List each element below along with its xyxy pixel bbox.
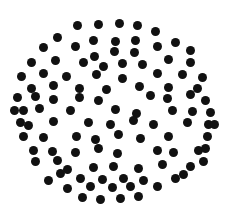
image-canvas <box>0 0 229 216</box>
scatter-dot <box>102 85 111 94</box>
scatter-dot <box>118 59 127 68</box>
scatter-dot <box>118 74 127 83</box>
scatter-dot <box>149 120 158 129</box>
scatter-dot <box>35 104 44 113</box>
scatter-dot <box>136 134 145 143</box>
scatter-dot <box>73 21 82 30</box>
scatter-dot <box>113 149 122 158</box>
scatter-dot <box>89 36 98 45</box>
scatter-dot <box>163 94 172 103</box>
scatter-dot <box>188 107 197 116</box>
scatter-dot <box>153 146 162 155</box>
scatter-dot <box>153 182 162 191</box>
scatter-dot <box>111 37 120 46</box>
scatter-dot <box>186 46 195 55</box>
scatter-dot <box>17 72 26 81</box>
scatter-dot <box>13 93 22 102</box>
scatter-dot <box>53 156 62 165</box>
scatter-dot <box>63 184 72 193</box>
scatter-dot <box>179 170 188 179</box>
scatter-dot <box>164 55 173 64</box>
scatter-dot <box>199 157 208 166</box>
scatter-dot <box>119 174 128 183</box>
scatter-dot <box>31 92 40 101</box>
scatter-dot <box>19 132 28 141</box>
scatter-dot <box>92 70 101 79</box>
scatter-dot <box>71 42 80 51</box>
scatter-dot <box>186 58 195 67</box>
scatter-dot <box>31 157 40 166</box>
scatter-dot <box>29 146 38 155</box>
scatter-dot <box>98 175 107 184</box>
scatter-dot <box>44 176 53 185</box>
scatter-dot <box>131 36 140 45</box>
scatter-dot <box>53 33 62 42</box>
scatter-dot <box>24 121 33 130</box>
scatter-dot <box>49 117 58 126</box>
scatter-dot <box>183 118 192 127</box>
scatter-dot <box>72 132 81 141</box>
scatter-dot <box>135 82 144 91</box>
scatter-dot <box>178 70 187 79</box>
scatter-dot <box>169 148 178 157</box>
scatter-dot <box>111 105 120 114</box>
scatter-dot <box>78 193 87 202</box>
scatter-dot <box>133 21 142 30</box>
scatter-dot <box>75 84 84 93</box>
scatter-dot <box>130 48 139 57</box>
scatter-dot <box>39 69 48 78</box>
scatter-dot <box>75 93 84 102</box>
scatter-dot <box>76 174 85 183</box>
scatter-dot <box>201 96 210 105</box>
scatter-dot <box>86 182 95 191</box>
scatter-dot <box>108 183 117 192</box>
scatter-dot <box>129 116 138 125</box>
scatter-dot <box>186 90 195 99</box>
scatter-dot <box>134 164 143 173</box>
scatter-dot <box>48 147 57 156</box>
scatter-dot <box>62 72 71 81</box>
scatter-dot <box>203 132 212 141</box>
dot-scatter-field <box>0 0 229 216</box>
scatter-dot <box>90 52 99 61</box>
scatter-dot <box>109 162 118 171</box>
scatter-dot <box>151 27 160 36</box>
scatter-dot <box>138 60 147 69</box>
scatter-dot <box>94 20 103 29</box>
scatter-dot <box>134 192 143 201</box>
scatter-dot <box>39 43 48 52</box>
scatter-dot <box>171 38 180 47</box>
scatter-dot <box>84 118 93 127</box>
scatter-dot <box>146 91 155 100</box>
scatter-dot <box>94 96 103 105</box>
scatter-dot <box>206 108 215 117</box>
scatter-dot <box>39 133 48 142</box>
scatter-dot <box>94 144 103 153</box>
scatter-dot <box>96 195 105 204</box>
scatter-dot <box>114 130 123 139</box>
scatter-dot <box>49 81 58 90</box>
scatter-dot <box>164 132 173 141</box>
scatter-dot <box>186 162 195 171</box>
scatter-dot <box>115 19 124 28</box>
scatter-dot <box>168 106 177 115</box>
scatter-dot <box>139 176 148 185</box>
scatter-dot <box>201 144 210 153</box>
scatter-dot <box>126 182 135 191</box>
scatter-dot <box>10 106 19 115</box>
scatter-dot <box>49 95 58 104</box>
scatter-dot <box>56 169 65 178</box>
scatter-dot <box>110 47 119 56</box>
scatter-dot <box>79 58 88 67</box>
scatter-dot <box>66 106 75 115</box>
scatter-dot <box>116 194 125 203</box>
scatter-dot <box>198 73 207 82</box>
scatter-dot <box>71 148 80 157</box>
scatter-dot <box>19 106 28 115</box>
scatter-dot <box>99 62 108 71</box>
scatter-dot <box>27 58 36 67</box>
scatter-dot <box>106 120 115 129</box>
scatter-dot <box>153 42 162 51</box>
scatter-dot <box>89 163 98 172</box>
scatter-dot <box>210 120 219 129</box>
